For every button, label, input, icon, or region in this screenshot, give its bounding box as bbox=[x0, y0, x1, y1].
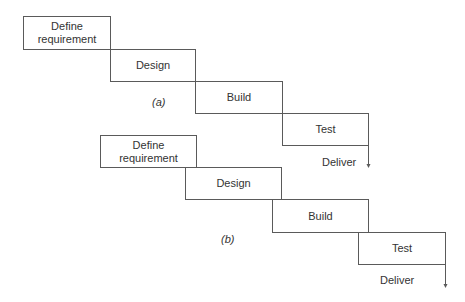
connector-lines bbox=[0, 0, 465, 302]
arrow-head-icon bbox=[444, 284, 448, 288]
arrow-head-icon bbox=[367, 164, 371, 168]
